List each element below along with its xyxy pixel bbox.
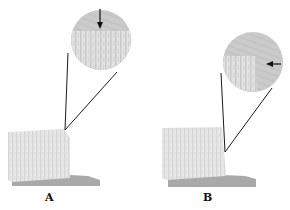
panel-b [162, 31, 284, 187]
inset-circle-a [70, 10, 132, 73]
figure-graphic [0, 0, 290, 210]
inset-circle-b [222, 31, 284, 93]
panel-label-b: B [203, 192, 212, 203]
block-a [8, 129, 70, 182]
connector-line-a2 [65, 72, 117, 130]
connector-line-b2 [225, 88, 272, 152]
panel-label-a: A [45, 192, 54, 203]
figure: A B [0, 0, 290, 210]
block-b [162, 127, 226, 180]
panel-a [8, 9, 132, 186]
connector-line-a1 [65, 53, 68, 130]
